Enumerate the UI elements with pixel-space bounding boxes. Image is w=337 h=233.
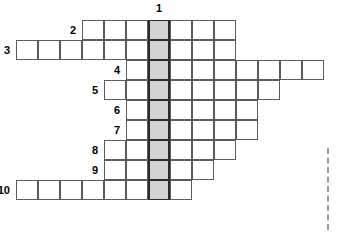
grid-cell-highlighted[interactable] [148,120,170,140]
grid-cell-highlighted[interactable] [148,60,170,80]
column-number-label-1: 1 [148,2,170,14]
grid-cell-highlighted[interactable] [148,20,170,40]
row-number-label-2: 2 [48,20,76,40]
grid-cell[interactable] [126,120,148,140]
grid-cell[interactable] [214,20,236,40]
grid-cell[interactable] [16,180,38,200]
grid-cell[interactable] [258,60,280,80]
grid-cell[interactable] [214,120,236,140]
grid-cell[interactable] [192,100,214,120]
grid-cell[interactable] [236,80,258,100]
grid-cell-highlighted[interactable] [148,80,170,100]
grid-cell[interactable] [38,180,60,200]
grid-cell[interactable] [192,40,214,60]
grid-cell[interactable] [82,180,104,200]
grid-cell[interactable] [104,40,126,60]
grid-cell[interactable] [236,60,258,80]
grid-cell[interactable] [192,160,214,180]
row-number-label-6: 6 [92,100,120,120]
row-number-label-7: 7 [92,120,120,140]
crossword-puzzle-grid: 12345678910 [0,0,337,233]
grid-cell[interactable] [214,40,236,60]
grid-cell[interactable] [236,120,258,140]
grid-cell[interactable] [60,40,82,60]
row-number-label-10: 10 [0,180,10,200]
grid-cell[interactable] [170,20,192,40]
grid-cell[interactable] [170,140,192,160]
grid-cell[interactable] [170,80,192,100]
grid-cell[interactable] [38,40,60,60]
grid-cell[interactable] [214,140,236,160]
grid-cell[interactable] [170,100,192,120]
grid-cell[interactable] [170,60,192,80]
grid-cell[interactable] [60,180,82,200]
dashed-rule-divider [327,148,329,230]
grid-cell[interactable] [126,80,148,100]
row-number-label-8: 8 [70,140,98,160]
grid-cell[interactable] [82,20,104,40]
grid-cell[interactable] [192,60,214,80]
grid-cell[interactable] [104,160,126,180]
grid-cell[interactable] [126,20,148,40]
grid-cell[interactable] [104,140,126,160]
grid-cell[interactable] [170,180,192,200]
grid-cell[interactable] [302,60,324,80]
grid-cell-highlighted[interactable] [148,40,170,60]
grid-cell[interactable] [236,100,258,120]
grid-cell[interactable] [192,140,214,160]
grid-cell[interactable] [126,180,148,200]
grid-cell[interactable] [214,60,236,80]
row-number-label-3: 3 [0,40,10,60]
grid-cell[interactable] [258,80,280,100]
grid-cell-highlighted[interactable] [148,140,170,160]
grid-cell[interactable] [192,80,214,100]
grid-cell[interactable] [126,40,148,60]
grid-cell[interactable] [126,60,148,80]
row-number-label-5: 5 [70,80,98,100]
grid-cell[interactable] [170,120,192,140]
grid-cell-highlighted[interactable] [148,180,170,200]
row-number-label-9: 9 [70,160,98,180]
grid-cell-highlighted[interactable] [148,100,170,120]
grid-cell[interactable] [170,40,192,60]
grid-cell[interactable] [82,40,104,60]
grid-cell[interactable] [126,100,148,120]
grid-cell[interactable] [104,180,126,200]
grid-cell[interactable] [214,100,236,120]
row-number-label-4: 4 [92,60,120,80]
grid-cell[interactable] [280,60,302,80]
grid-cell[interactable] [170,160,192,180]
grid-cell[interactable] [104,20,126,40]
grid-cell[interactable] [192,120,214,140]
grid-cell[interactable] [192,20,214,40]
grid-cell[interactable] [126,140,148,160]
grid-cell-highlighted[interactable] [148,160,170,180]
grid-cell[interactable] [16,40,38,60]
grid-cell[interactable] [104,80,126,100]
grid-cell[interactable] [126,160,148,180]
grid-cell[interactable] [214,80,236,100]
